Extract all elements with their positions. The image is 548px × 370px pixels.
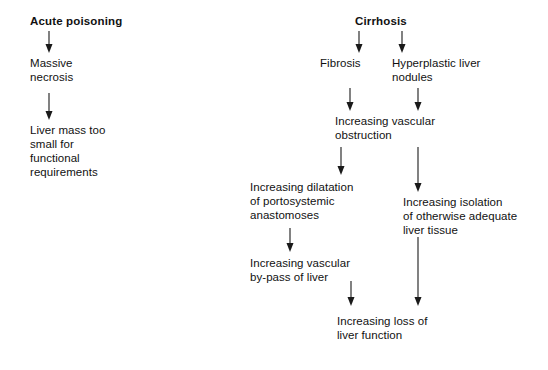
flowchart-diagram: Acute poisoningMassive necrosisLiver mas… — [0, 0, 548, 370]
arrow-isolation-to-loss-icon — [415, 237, 422, 306]
arrow-dilatation-to-bypass-icon — [287, 228, 294, 252]
node-hyperplastic-liver-nodules: Hyperplastic liver nodules — [392, 56, 480, 84]
node-acute-poisoning: Acute poisoning — [30, 14, 122, 28]
arrow-bypass-to-loss-icon — [348, 281, 355, 306]
arrow-obstruction-to-isolation-icon — [415, 147, 422, 192]
arrow-nodules-to-isolation-upper-icon — [415, 88, 422, 111]
node-cirrhosis: Cirrhosis — [355, 14, 407, 28]
arrow-fibrosis-to-obstruction-icon — [347, 88, 354, 111]
arrow-cirrhosis-to-nodules-icon — [399, 31, 406, 53]
node-increasing-vascular-bypass: Increasing vascular by-pass of liver — [250, 256, 350, 284]
node-fibrosis: Fibrosis — [320, 56, 361, 70]
node-increasing-isolation-liver-tissue: Increasing isolation of otherwise adequa… — [403, 195, 517, 237]
node-increasing-dilatation-portosystemic: Increasing dilatation of portosystemic a… — [250, 180, 353, 222]
arrow-necrosis-to-livermass-icon — [46, 93, 53, 120]
arrow-acute-to-necrosis-icon — [46, 31, 53, 53]
node-massive-necrosis: Massive necrosis — [30, 56, 73, 84]
arrow-obstruction-to-dilatation-icon — [338, 147, 345, 175]
node-increasing-vascular-obstruction: Increasing vascular obstruction — [335, 114, 435, 142]
arrow-cirrhosis-to-fibrosis-icon — [356, 31, 363, 53]
node-increasing-loss-liver-function: Increasing loss of liver function — [337, 314, 427, 342]
node-liver-mass-too-small: Liver mass too small for functional requ… — [30, 123, 105, 179]
